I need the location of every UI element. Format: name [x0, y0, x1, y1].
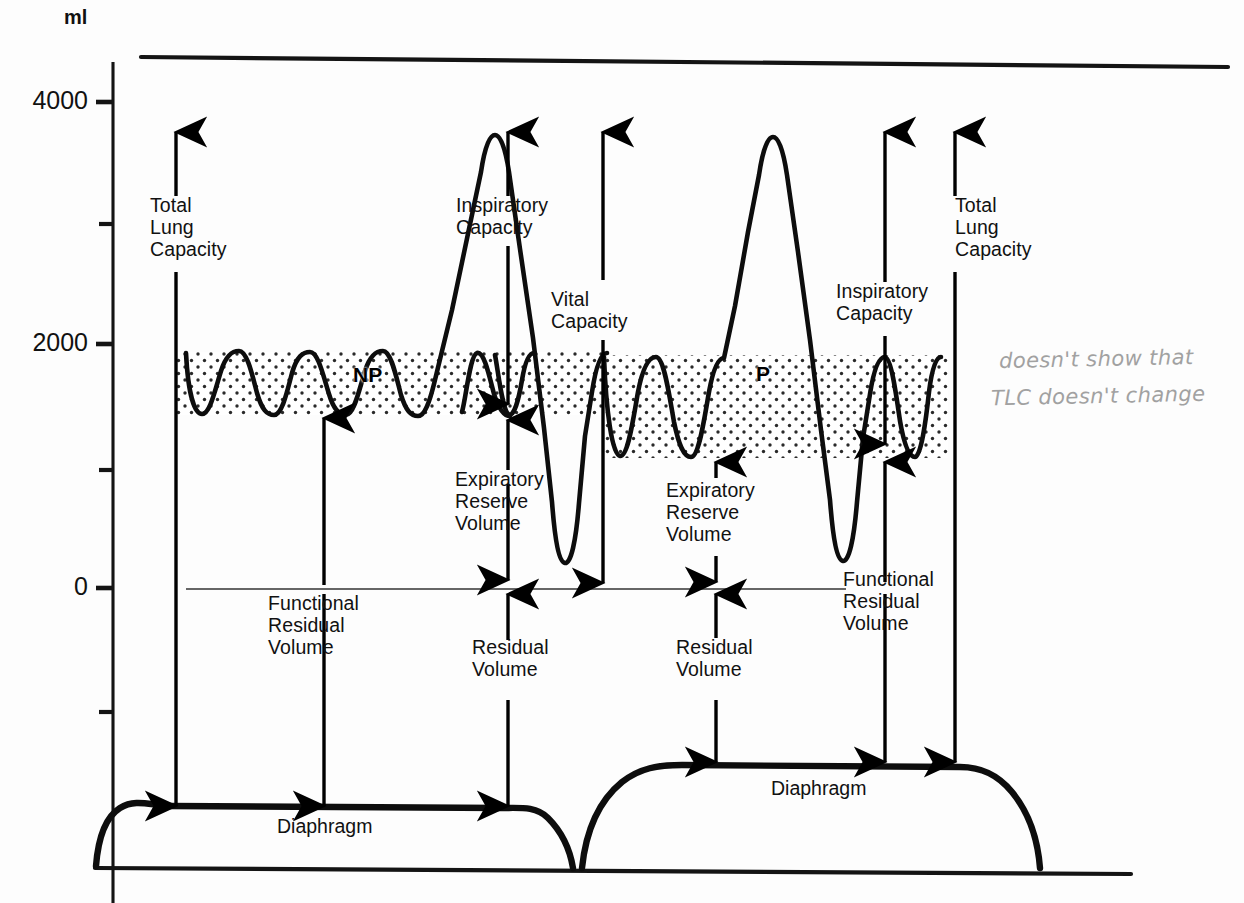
label-total-lung-capacity-left-line1: Total: [150, 194, 192, 217]
label-diaphragm-left: Diaphragm: [277, 815, 372, 838]
label-functional-residual-right-line3: Volume: [843, 612, 909, 635]
top-frame-line: [141, 57, 1228, 67]
label-functional-residual-left-line1: Functional: [268, 592, 359, 615]
label-functional-residual-right-line1: Functional: [843, 568, 934, 591]
label-expiratory-reserve-right-line3: Volume: [666, 523, 732, 546]
bottom-baseline: [95, 868, 1131, 874]
label-inspiratory-capacity-left-line1: Inspiratory: [456, 194, 548, 217]
label-diaphragm-right: Diaphragm: [771, 777, 866, 800]
label-expiratory-reserve-left-line2: Reserve: [455, 490, 528, 513]
label-vital-capacity-line1: Vital: [551, 288, 589, 311]
label-inspiratory-capacity-left-line2: Capacity: [456, 216, 533, 239]
label-total-lung-capacity-right-line2: Lung: [955, 216, 999, 239]
label-residual-volume-right-line2: Volume: [676, 658, 742, 681]
label-expiratory-reserve-left-line3: Volume: [455, 512, 521, 535]
spirogram-svg: [0, 0, 1244, 903]
handwritten-annotation-line1: doesn't show that: [999, 339, 1194, 380]
y-axis-unit-label: ml: [64, 6, 87, 29]
figure-canvas: ml 4000 2000 0 Total Lung Capacity Inspi…: [0, 0, 1244, 903]
y-axis-tick-label-2000: 2000: [0, 328, 88, 357]
label-total-lung-capacity-left-line2: Lung: [150, 216, 194, 239]
label-functional-residual-left-line3: Volume: [268, 636, 334, 659]
label-functional-residual-right-line2: Residual: [843, 590, 920, 613]
y-axis: [96, 62, 113, 903]
label-inspiratory-capacity-right-line1: Inspiratory: [836, 280, 928, 303]
handwritten-annotation-line2: TLC doesn't change: [991, 376, 1206, 417]
label-functional-residual-left-line2: Residual: [268, 614, 345, 637]
label-total-lung-capacity-left-line3: Capacity: [150, 238, 227, 261]
spirogram-trace-p: [604, 137, 941, 561]
y-axis-tick-label-0: 0: [0, 572, 88, 601]
label-expiratory-reserve-right-line1: Expiratory: [666, 479, 755, 502]
label-residual-volume-left-line1: Residual: [472, 636, 549, 659]
label-inspiratory-capacity-right-line2: Capacity: [836, 302, 913, 325]
band-label-np: NP: [353, 363, 382, 387]
band-label-p: P: [756, 362, 770, 386]
label-expiratory-reserve-right-line2: Reserve: [666, 501, 739, 524]
y-axis-tick-label-4000: 4000: [0, 86, 88, 115]
label-residual-volume-left-line2: Volume: [472, 658, 538, 681]
label-residual-volume-right-line1: Residual: [676, 636, 753, 659]
label-expiratory-reserve-left-line1: Expiratory: [455, 468, 544, 491]
label-vital-capacity-line2: Capacity: [551, 310, 628, 333]
label-total-lung-capacity-right-line1: Total: [955, 194, 997, 217]
label-total-lung-capacity-right-line3: Capacity: [955, 238, 1032, 261]
